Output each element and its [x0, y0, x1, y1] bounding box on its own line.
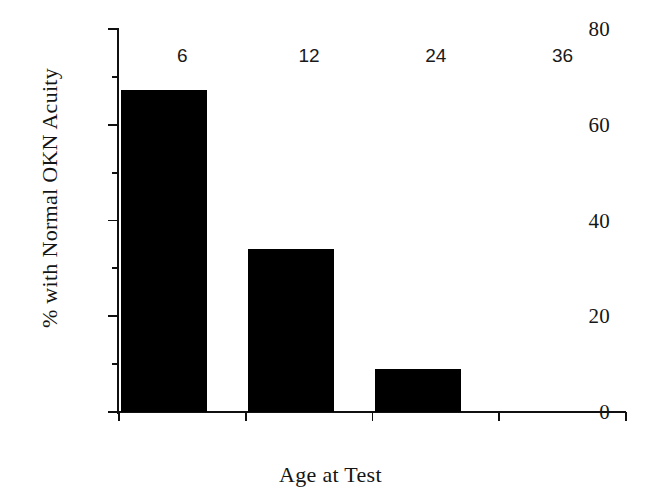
x-axis-tick-label: 36: [552, 45, 573, 67]
y-axis-tick-major: [108, 315, 119, 317]
x-axis-tick-label: 6: [177, 45, 188, 67]
x-axis-tick: [498, 412, 500, 421]
bar: [248, 249, 334, 412]
x-axis-tick: [245, 412, 247, 421]
y-axis-tick-major: [108, 28, 119, 30]
y-axis-tick-label: 60: [589, 112, 610, 137]
bar: [121, 90, 207, 412]
x-axis-tick: [118, 412, 120, 421]
chart-figure: % with Normal OKN Acuity 806040200612243…: [0, 0, 661, 502]
y-axis-tick-label: 80: [589, 17, 610, 42]
x-axis-tick-label: 24: [425, 45, 446, 67]
y-axis-tick-minor: [112, 267, 119, 269]
x-axis-tick: [625, 412, 627, 421]
y-axis-tick-minor: [112, 363, 119, 365]
y-axis-tick-major: [108, 124, 119, 126]
y-axis-tick-label: 20: [589, 304, 610, 329]
x-axis-title: Age at Test: [0, 462, 661, 488]
y-axis-tick-minor: [112, 172, 119, 174]
y-axis-title: % with Normal OKN Acuity: [37, 0, 63, 398]
plot-area: 8060402006122436: [119, 29, 626, 412]
y-axis-tick-major: [108, 220, 119, 222]
y-axis-tick-label: 0: [599, 400, 610, 425]
x-axis-tick: [372, 412, 374, 421]
y-axis-tick-minor: [112, 76, 119, 78]
bar: [375, 369, 461, 412]
x-axis-tick-label: 12: [299, 45, 320, 67]
y-axis-tick-label: 40: [589, 208, 610, 233]
